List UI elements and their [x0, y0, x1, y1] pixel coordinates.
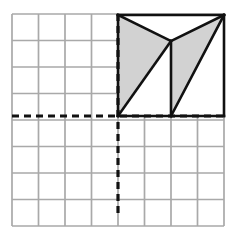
figure-canvas [0, 0, 237, 235]
geometry-figure [0, 0, 237, 235]
